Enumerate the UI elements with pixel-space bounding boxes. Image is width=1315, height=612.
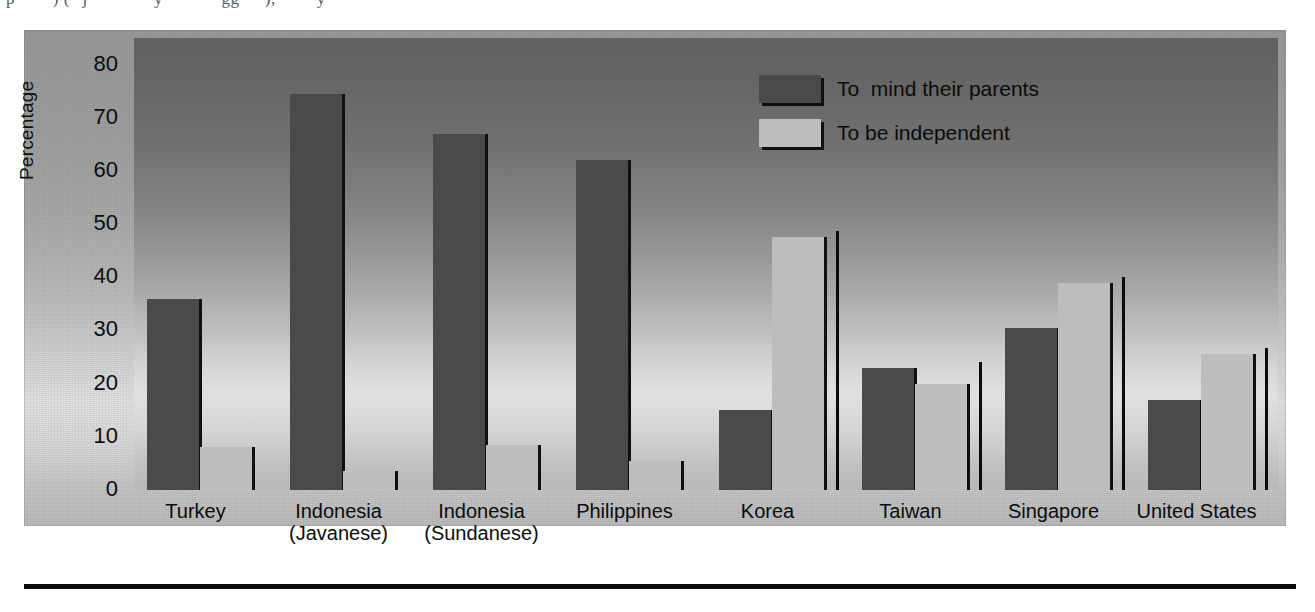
bar-mind-parents[interactable]: [147, 299, 199, 490]
y-tick-label: 60: [78, 159, 118, 181]
y-tick-label: 70: [78, 106, 118, 128]
x-axis-label: Philippines: [553, 500, 696, 522]
group-separator: [1265, 348, 1268, 490]
bar-be-independent[interactable]: [772, 237, 824, 490]
plot-area: [134, 38, 1278, 490]
y-axis-title: Percentage: [16, 81, 38, 180]
x-axis-label: Indonesia (Sundanese): [410, 500, 553, 545]
x-axis-label: Taiwan: [839, 500, 982, 522]
group-separator: [1122, 277, 1125, 490]
y-tick-label: 10: [78, 425, 118, 447]
legend-label-mind-parents: To mind their parents: [837, 77, 1039, 101]
bar-be-independent[interactable]: [200, 447, 252, 490]
x-axis-label: Singapore: [982, 500, 1125, 522]
y-tick-label: 40: [78, 265, 118, 287]
bar-mind-parents[interactable]: [1005, 328, 1057, 490]
bar-be-independent[interactable]: [486, 445, 538, 490]
x-axis-label: United States: [1125, 500, 1268, 522]
bar-be-independent[interactable]: [1058, 283, 1110, 490]
bar-mind-parents[interactable]: [576, 160, 628, 490]
figure-panel: Percentage 01020304050607080 To mind the…: [24, 30, 1286, 526]
x-axis-label: Korea: [696, 500, 839, 522]
x-axis-label: Turkey: [124, 500, 267, 522]
bar-be-independent[interactable]: [343, 471, 395, 490]
bar-mind-parents[interactable]: [862, 368, 914, 490]
legend-item-mind-parents[interactable]: To mind their parents: [759, 75, 1039, 103]
y-tick-label: 80: [78, 53, 118, 75]
bar-mind-parents[interactable]: [433, 134, 485, 490]
legend-label-be-independent: To be independent: [837, 121, 1010, 145]
group-separator: [836, 231, 839, 490]
bar-be-independent[interactable]: [1201, 354, 1253, 490]
bar-mind-parents[interactable]: [719, 410, 771, 490]
legend-swatch-mind-parents: [759, 75, 821, 103]
y-tick-label: 20: [78, 372, 118, 394]
chart-legend: To mind their parents To be independent: [759, 75, 1039, 163]
legend-swatch-be-independent: [759, 119, 821, 147]
legend-item-be-independent[interactable]: To be independent: [759, 119, 1039, 147]
bar-mind-parents[interactable]: [1148, 400, 1200, 490]
y-tick-label: 50: [78, 212, 118, 234]
x-axis-label: Indonesia (Javanese): [267, 500, 410, 545]
page-top-text-fragment: p······) (··j····· ··· ·y ··· ··· ·gg···…: [0, 0, 1315, 11]
group-separator: [979, 362, 982, 490]
bar-be-independent[interactable]: [629, 461, 681, 490]
bar-be-independent[interactable]: [915, 384, 967, 490]
page-bottom-rule: [24, 584, 1296, 589]
y-tick-label: 0: [78, 478, 118, 500]
y-tick-label: 30: [78, 318, 118, 340]
bar-mind-parents[interactable]: [290, 94, 342, 490]
